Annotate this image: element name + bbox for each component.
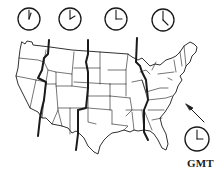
- clock-central-icon: [105, 8, 127, 30]
- clock-pacific-icon: [18, 8, 40, 30]
- gmt-label: GMT: [187, 157, 214, 169]
- clock-eastern-icon: [152, 9, 174, 31]
- clock-mountain-icon: [59, 8, 81, 30]
- timezone-boundaries: [38, 38, 148, 150]
- clock-gmt-icon: [185, 127, 209, 151]
- timezone-map: [0, 0, 217, 175]
- arrow-pointer: [190, 108, 204, 122]
- arrow-head-icon: [186, 104, 193, 110]
